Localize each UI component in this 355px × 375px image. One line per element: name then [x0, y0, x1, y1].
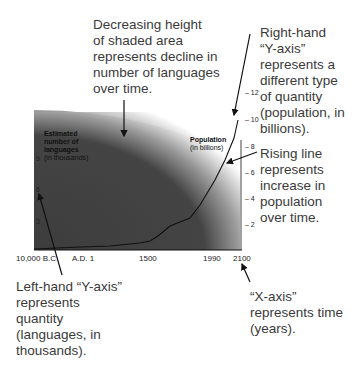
tick-value: 10: [251, 116, 259, 123]
text-line: represents a: [260, 57, 345, 73]
text-line: (in thousands): [44, 154, 88, 162]
text-line: of quantity: [260, 89, 345, 105]
text-line: (languages, in: [16, 327, 122, 343]
x-tick: 1500: [139, 254, 157, 263]
tick-value: 4: [251, 195, 255, 202]
right-tick: – 10: [245, 116, 259, 123]
text-line: over time.: [93, 81, 220, 97]
text-line: represents decline in: [93, 49, 220, 65]
annotation-bottom-left: Left-hand “Y-axis” represents quantity (…: [16, 279, 122, 359]
text-line: “X-axis”: [250, 289, 343, 305]
text-line: quantity: [16, 311, 122, 327]
left-tick: 6: [36, 186, 40, 193]
x-tick: 10,000 B.C.: [16, 254, 58, 263]
left-tick: 9: [36, 155, 40, 162]
text-line: different type: [260, 73, 345, 89]
text-line: increase in: [260, 178, 325, 194]
annotation-right-top: Right-hand “Y-axis” represents a differe…: [260, 25, 345, 137]
text-line: represents time: [250, 305, 343, 321]
text-line: number of languages: [93, 65, 220, 81]
text-line: (years).: [250, 321, 343, 337]
text-line: Right-hand: [260, 25, 345, 41]
text-line: population: [260, 194, 325, 210]
left-axis-title: Estimated number of languages (in thousa…: [44, 130, 88, 162]
annotation-right-mid: Rising line represents increase in popul…: [260, 146, 325, 226]
tick-value: 8: [251, 143, 255, 150]
text-line: “Y-axis”: [260, 41, 345, 57]
text-line: over time.: [260, 210, 325, 226]
text-line: billions).: [260, 121, 345, 137]
text-line: represents: [16, 295, 122, 311]
tick-value: 2: [251, 221, 255, 228]
text-line: Decreasing height: [93, 17, 220, 33]
annotation-top: Decreasing height of shaded area represe…: [93, 17, 220, 97]
text-line: languages: [44, 146, 88, 154]
x-tick: 2100: [233, 254, 251, 263]
right-tick: – 12: [245, 89, 259, 96]
right-tick: – 2: [245, 221, 255, 228]
x-tick: 1990: [203, 254, 221, 263]
annotation-bottom-right: “X-axis” represents time (years).: [250, 289, 343, 337]
right-tick: – 8: [245, 143, 255, 150]
text-line: of shaded area: [93, 33, 220, 49]
right-axis-subtitle: (in billions): [190, 144, 223, 152]
tick-value: 12: [251, 89, 259, 96]
text-line: Rising line: [260, 146, 325, 162]
left-tick: 3: [36, 218, 40, 225]
right-axis-title: Population: [190, 136, 226, 144]
tick-value: 6: [251, 169, 255, 176]
text-line: number of: [44, 138, 88, 146]
text-line: thousands).: [16, 343, 122, 359]
text-line: (population, in: [260, 105, 345, 121]
right-tick: – 4: [245, 195, 255, 202]
text-line: Left-hand “Y-axis”: [16, 279, 122, 295]
right-tick: – 6: [245, 169, 255, 176]
x-tick: A.D. 1: [72, 254, 94, 263]
text-line: represents: [260, 162, 325, 178]
text-line: Estimated: [44, 130, 88, 138]
